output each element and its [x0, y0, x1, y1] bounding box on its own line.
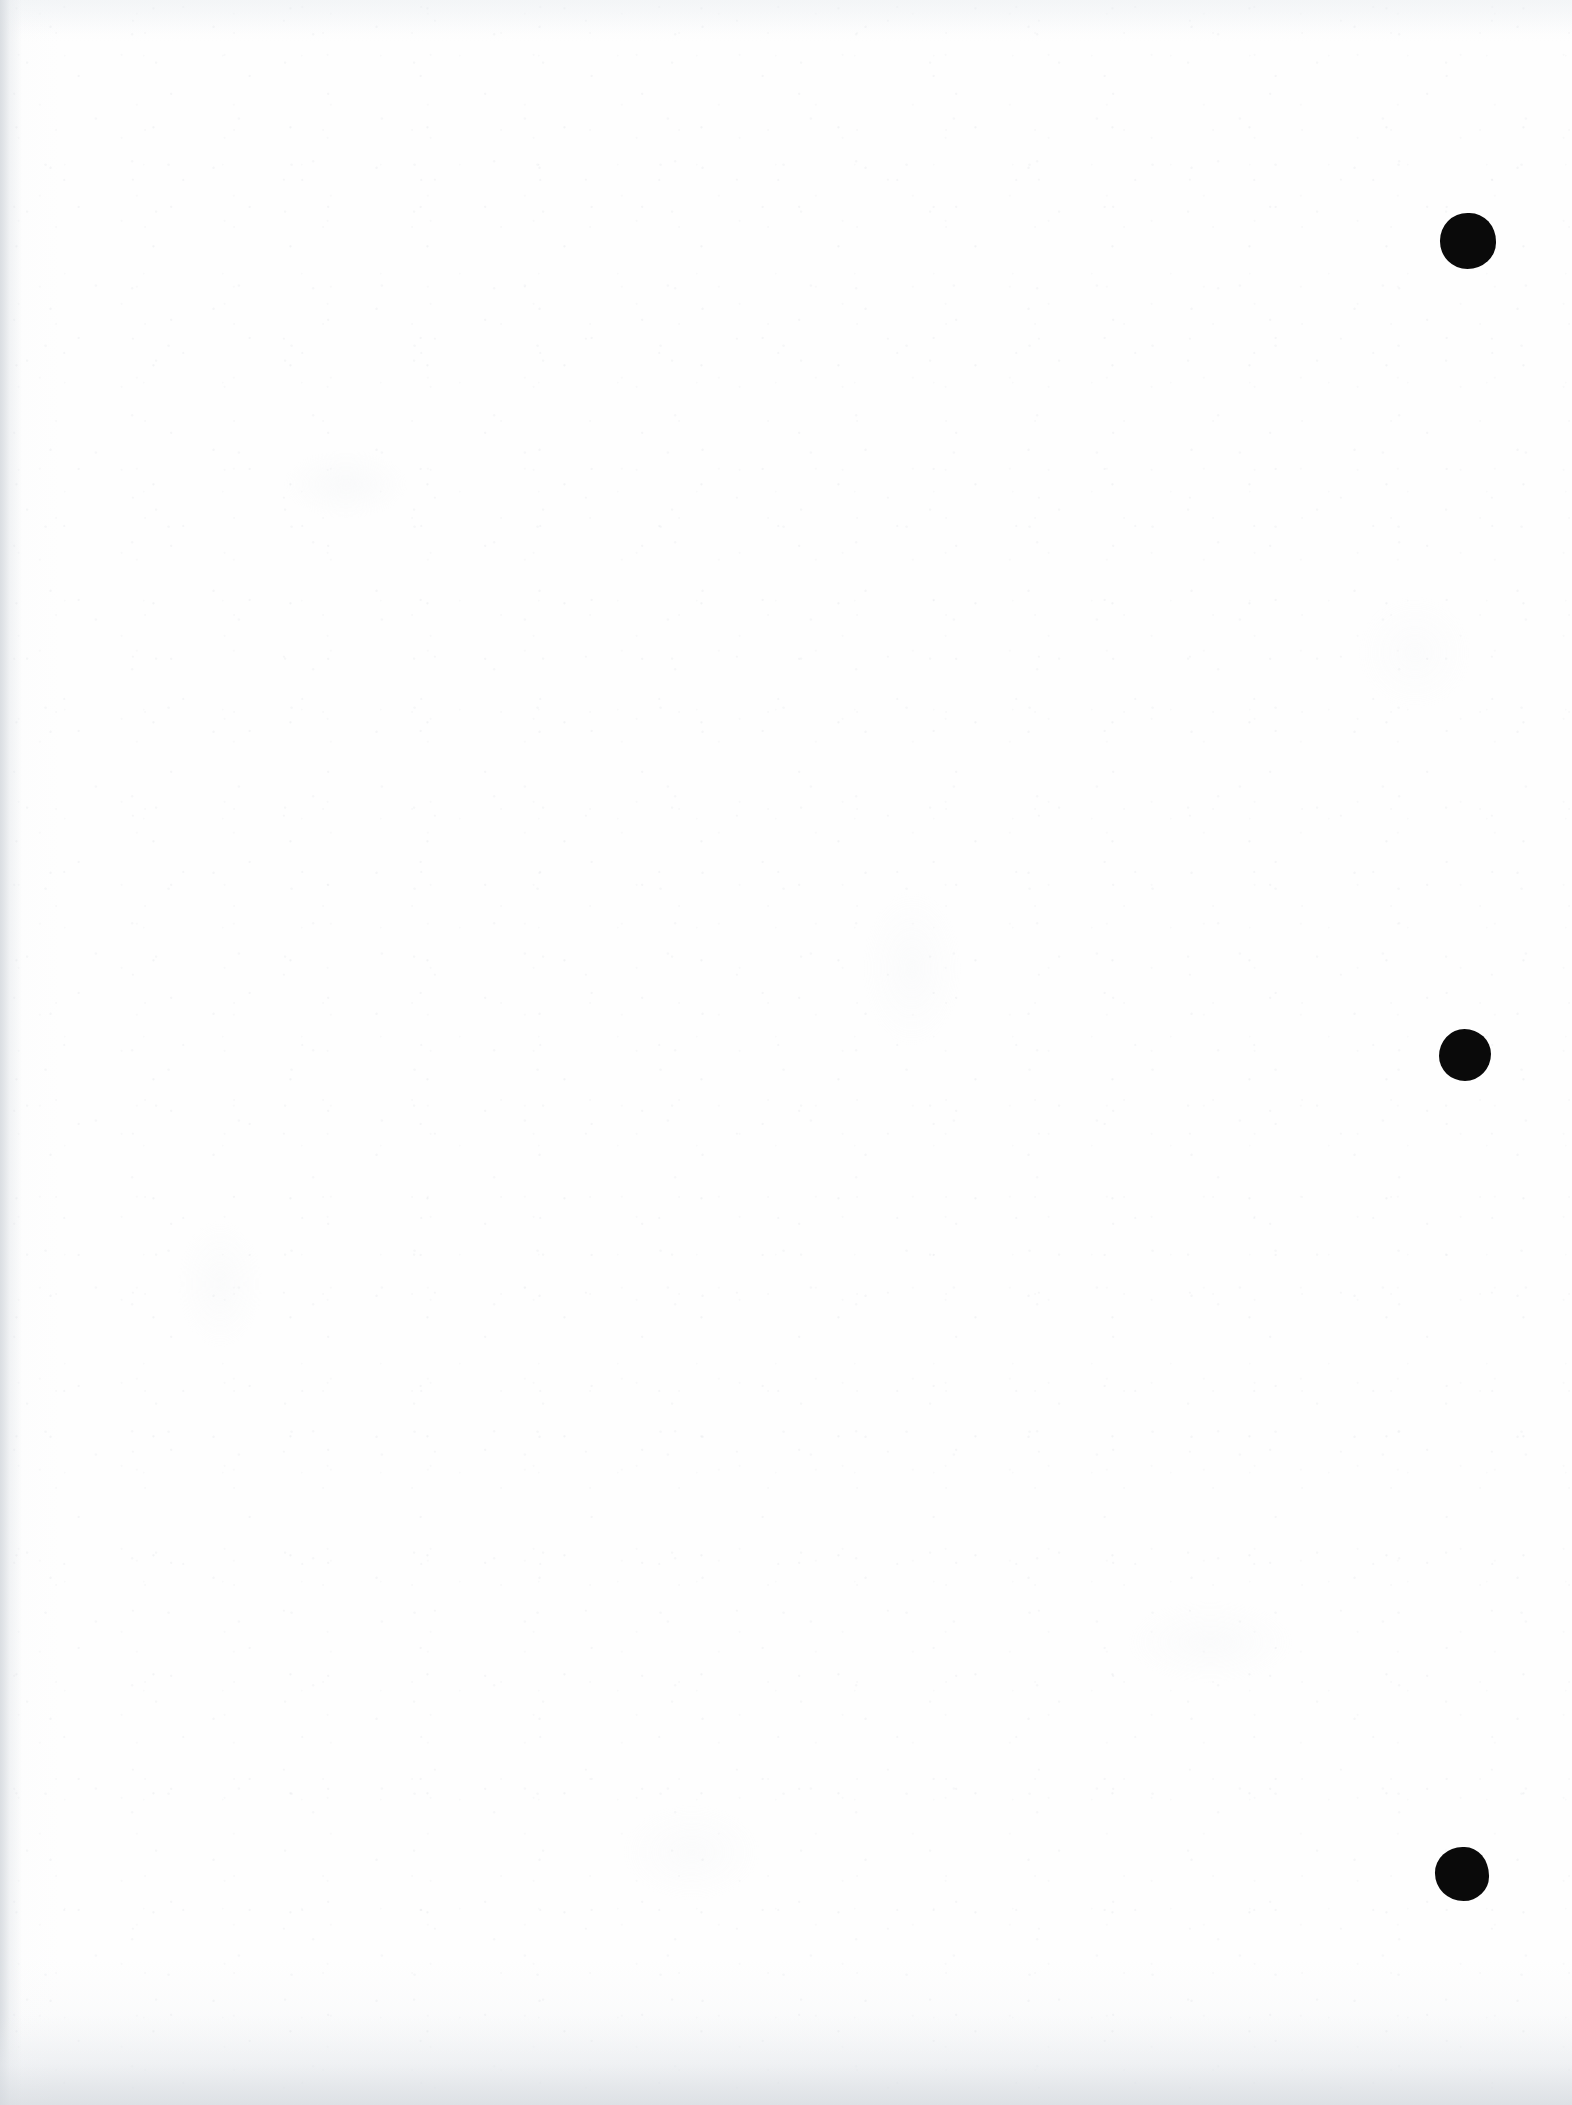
- paper-grain-layer-coarse: [0, 0, 1572, 2105]
- ink-dot-top-icon: [1440, 213, 1496, 269]
- paper-grain-layer-fine: [0, 0, 1572, 2105]
- ink-dot-middle-icon: [1439, 1029, 1491, 1081]
- scan-edge-shadow-left: [0, 0, 22, 2105]
- scanned-page: [0, 0, 1572, 2105]
- ink-dot-bottom-icon: [1435, 1847, 1489, 1901]
- scan-edge-shadow-top: [0, 0, 1572, 34]
- paper-mottling-layer: [0, 0, 1572, 2105]
- scan-edge-shadow-bottom: [0, 2015, 1572, 2105]
